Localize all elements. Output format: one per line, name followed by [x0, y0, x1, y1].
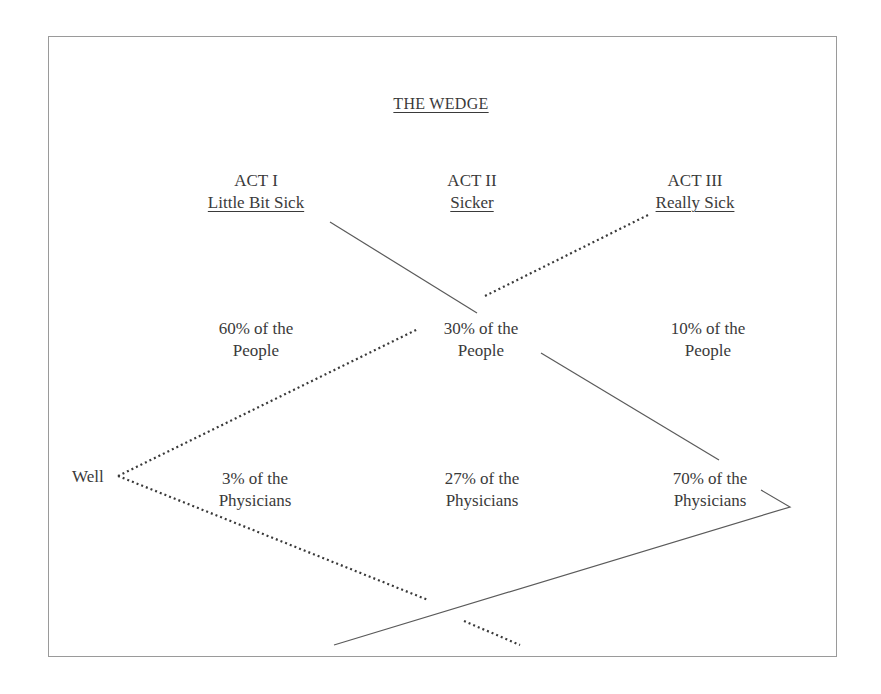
act-2-label: Sicker: [447, 192, 496, 214]
solid-line-act2-to-act3: [541, 353, 719, 460]
people-act-1-line1: 60% of the: [219, 318, 294, 340]
dotted-line-act3-to-act2: [485, 215, 648, 296]
people-act-3-line2: People: [671, 340, 746, 362]
physicians-act-3-line1: 70% of the: [673, 468, 748, 490]
diagram-title: THE WEDGE: [393, 95, 488, 113]
physicians-act-2: 27% of the Physicians: [445, 468, 520, 512]
act-2-name: ACT II: [447, 170, 496, 192]
people-act-3-line1: 10% of the: [671, 318, 746, 340]
people-act-1: 60% of the People: [219, 318, 294, 362]
people-act-2-line1: 30% of the: [444, 318, 519, 340]
people-act-3: 10% of the People: [671, 318, 746, 362]
physicians-act-1-line1: 3% of the: [219, 468, 292, 490]
act-3-name: ACT III: [656, 170, 735, 192]
act-2-header: ACT II Sicker: [447, 170, 496, 214]
act-1-name: ACT I: [208, 170, 304, 192]
people-act-2: 30% of the People: [444, 318, 519, 362]
act-3-header: ACT III Really Sick: [656, 170, 735, 214]
dotted-line-lower-continuation: [464, 621, 520, 645]
physicians-act-2-line2: Physicians: [445, 490, 520, 512]
act-1-label: Little Bit Sick: [208, 192, 304, 214]
act-1-header: ACT I Little Bit Sick: [208, 170, 304, 214]
solid-line-act1-to-act2: [330, 222, 477, 313]
physicians-act-1-line2: Physicians: [219, 490, 292, 512]
physicians-act-3: 70% of the Physicians: [673, 468, 748, 512]
act-3-label: Really Sick: [656, 192, 735, 214]
people-act-2-line2: People: [444, 340, 519, 362]
physicians-act-1: 3% of the Physicians: [219, 468, 292, 512]
physicians-act-3-line2: Physicians: [673, 490, 748, 512]
physicians-act-2-line1: 27% of the: [445, 468, 520, 490]
well-label: Well: [72, 466, 104, 488]
people-act-1-line2: People: [219, 340, 294, 362]
solid-line-arrow-tip: [334, 490, 790, 645]
